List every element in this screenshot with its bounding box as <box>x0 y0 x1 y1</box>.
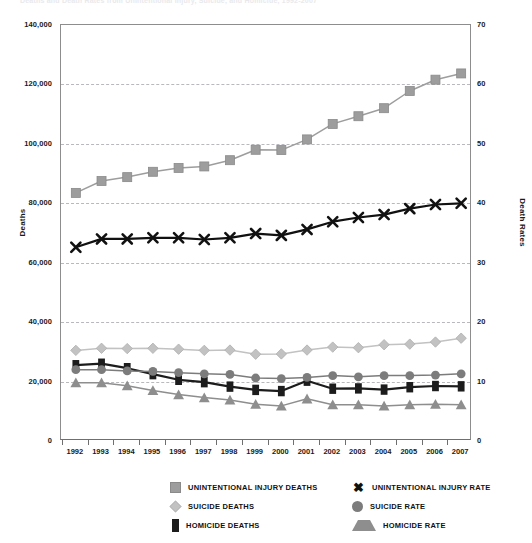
data-point-square <box>328 119 337 128</box>
plot-area <box>60 24 471 440</box>
series-diamond <box>71 333 467 359</box>
legend-item-label: UNINTENTIONAL INJURY RATE <box>372 483 490 492</box>
data-point-black-square <box>201 377 208 387</box>
data-point-diamond <box>199 345 209 355</box>
left-axis-tick-label: 60,000 <box>0 258 52 267</box>
data-point-circle <box>251 374 260 383</box>
left-axis-tick-label: 100,000 <box>0 139 52 148</box>
data-point-diamond <box>276 349 286 359</box>
data-point-square <box>148 167 157 176</box>
legend-item[interactable]: HOMICIDE RATE <box>352 516 490 535</box>
legend-item-label: HOMICIDE DEATHS <box>186 521 260 530</box>
black-square-icon <box>172 519 179 532</box>
chart-page: Deaths and Death Rates from Unintentiona… <box>0 0 532 543</box>
data-point-black-square <box>406 382 413 392</box>
data-point-triangle <box>302 394 313 404</box>
data-point-diamond <box>379 340 389 350</box>
right-axis-tick-label: 20 <box>477 317 517 326</box>
legend-item[interactable]: ✖UNINTENTIONAL INJURY RATE <box>352 478 490 497</box>
data-point-circle <box>71 365 80 374</box>
data-point-diamond <box>250 349 260 359</box>
legend-item[interactable]: SUICIDE DEATHS <box>170 497 317 516</box>
data-point-diamond <box>96 343 106 353</box>
series-square <box>71 69 465 197</box>
right-axis-tick-label: 70 <box>477 20 517 29</box>
series-layer <box>61 25 472 441</box>
left-axis-tick-label: 140,000 <box>0 20 52 29</box>
legend-column-rates: ✖UNINTENTIONAL INJURY RATESUICIDE RATEHO… <box>352 478 490 535</box>
chart-title-clipped: Deaths and Death Rates from Unintentiona… <box>20 0 440 5</box>
data-point-diamond <box>225 345 235 355</box>
x-axis-tick-label: 2007 <box>443 447 477 456</box>
data-point-circle <box>380 371 389 380</box>
data-point-diamond <box>302 345 312 355</box>
legend-column-deaths: UNINTENTIONAL INJURY DEATHSSUICIDE DEATH… <box>170 478 317 535</box>
legend-item-label: UNINTENTIONAL INJURY DEATHS <box>188 483 317 492</box>
data-point-diamond <box>328 342 338 352</box>
right-axis-tick-label: 30 <box>477 258 517 267</box>
data-point-square <box>405 86 414 95</box>
data-point-circle <box>97 365 106 374</box>
series-black-square <box>72 359 464 397</box>
data-point-diamond <box>122 343 132 353</box>
legend-item[interactable]: SUICIDE RATE <box>352 497 490 516</box>
right-axis-tick-label: 10 <box>477 377 517 386</box>
left-axis-tick-label: 120,000 <box>0 79 52 88</box>
left-axis-tick-label: 0 <box>0 436 52 445</box>
data-point-black-square <box>432 381 439 391</box>
data-point-black-square <box>252 385 259 395</box>
x-icon: ✖ <box>352 482 365 493</box>
data-point-circle <box>354 372 363 381</box>
triangle-icon <box>352 520 376 531</box>
data-point-black-square <box>355 383 362 393</box>
data-point-circle <box>277 374 286 383</box>
legend-item[interactable]: HOMICIDE DEATHS <box>170 516 317 535</box>
legend-item[interactable]: UNINTENTIONAL INJURY DEATHS <box>170 478 317 497</box>
legend: UNINTENTIONAL INJURY DEATHSSUICIDE DEATH… <box>170 478 500 536</box>
data-point-black-square <box>278 386 285 396</box>
data-point-black-square <box>458 381 465 391</box>
data-point-diamond <box>405 339 415 349</box>
left-axis-tick-label: 40,000 <box>0 317 52 326</box>
data-point-black-square <box>227 381 234 391</box>
data-point-circle <box>200 369 209 378</box>
data-point-square <box>174 163 183 172</box>
data-point-circle <box>149 367 158 376</box>
data-point-circle <box>303 373 312 382</box>
right-axis-tick-label: 50 <box>477 139 517 148</box>
data-point-circle <box>174 368 183 377</box>
data-point-square <box>251 145 260 154</box>
data-point-square <box>354 112 363 121</box>
data-point-square <box>431 75 440 84</box>
square-icon <box>170 482 181 493</box>
data-point-square <box>200 162 209 171</box>
data-point-circle <box>431 371 440 380</box>
series-x <box>71 199 466 252</box>
data-point-diamond <box>353 342 363 352</box>
data-point-circle <box>328 371 337 380</box>
data-point-black-square <box>381 384 388 394</box>
data-point-square <box>277 146 286 155</box>
right-axis-tick-label: 40 <box>477 198 517 207</box>
data-point-diamond <box>456 333 466 343</box>
data-point-black-square <box>329 384 336 394</box>
left-axis-tick-label: 20,000 <box>0 377 52 386</box>
diamond-icon <box>169 500 181 512</box>
data-point-diamond <box>430 337 440 347</box>
data-point-square <box>71 188 80 197</box>
legend-item-label: HOMICIDE RATE <box>383 521 446 530</box>
data-point-circle <box>457 369 466 378</box>
data-point-square <box>97 177 106 186</box>
left-axis-tick-label: 80,000 <box>0 198 52 207</box>
data-point-circle <box>405 371 414 380</box>
right-axis-title: Death Rates <box>518 188 527 258</box>
data-point-square <box>225 156 234 165</box>
right-axis-tick-label: 60 <box>477 79 517 88</box>
data-point-square <box>303 135 312 144</box>
data-point-square <box>123 173 132 182</box>
data-point-diamond <box>71 345 81 355</box>
data-point-square <box>457 69 466 78</box>
data-point-square <box>380 104 389 113</box>
data-point-circle <box>226 370 235 379</box>
data-point-diamond <box>148 343 158 353</box>
